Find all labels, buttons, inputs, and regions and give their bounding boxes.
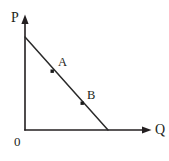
- origin-label: 0: [14, 135, 21, 148]
- point-a-marker: [51, 70, 54, 73]
- quantity-axis-label: Q: [155, 123, 165, 137]
- demand-curve-line: [25, 37, 108, 130]
- quantity-axis-arrow-icon: [142, 126, 152, 133]
- diagram-canvas: [0, 0, 169, 161]
- point-a-label: A: [58, 56, 67, 69]
- point-b-label: B: [87, 89, 95, 102]
- price-axis-arrow-icon: [21, 15, 28, 25]
- demand-curve-figure: P Q 0 A B: [0, 0, 169, 161]
- price-axis-label: P: [11, 11, 19, 25]
- point-b-marker: [81, 102, 84, 105]
